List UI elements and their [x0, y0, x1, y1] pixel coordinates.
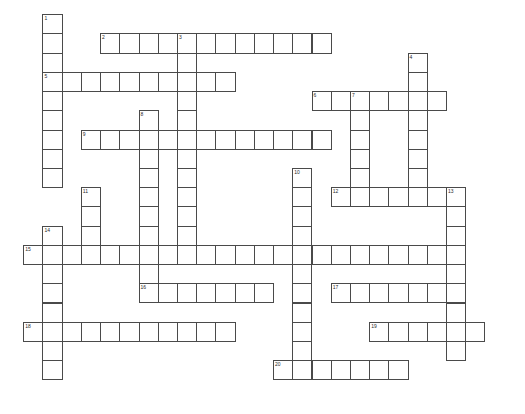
crossword-cell[interactable]	[350, 168, 370, 188]
crossword-cell[interactable]	[331, 245, 351, 265]
crossword-cell[interactable]	[292, 245, 312, 265]
crossword-cell[interactable]	[446, 245, 466, 265]
crossword-cell[interactable]	[254, 245, 274, 265]
crossword-cell[interactable]	[177, 322, 197, 342]
crossword-cell[interactable]	[158, 245, 178, 265]
crossword-cell[interactable]	[196, 322, 216, 342]
crossword-cell[interactable]	[369, 91, 389, 111]
crossword-cell[interactable]	[42, 33, 62, 53]
crossword-cell[interactable]	[312, 245, 332, 265]
crossword-cell[interactable]	[369, 360, 389, 380]
crossword-cell[interactable]	[42, 245, 62, 265]
crossword-cell[interactable]: 5	[42, 72, 62, 92]
crossword-cell[interactable]	[446, 226, 466, 246]
crossword-cell[interactable]	[100, 322, 120, 342]
crossword-cell[interactable]	[119, 72, 139, 92]
crossword-cell[interactable]	[177, 91, 197, 111]
crossword-cell[interactable]	[427, 283, 447, 303]
crossword-cell[interactable]	[331, 91, 351, 111]
crossword-cell[interactable]	[177, 168, 197, 188]
crossword-cell[interactable]	[177, 149, 197, 169]
crossword-cell[interactable]	[292, 322, 312, 342]
crossword-cell[interactable]	[81, 322, 101, 342]
crossword-cell[interactable]	[446, 341, 466, 361]
crossword-cell[interactable]	[408, 187, 428, 207]
crossword-cell[interactable]: 4	[408, 53, 428, 73]
crossword-cell[interactable]	[42, 341, 62, 361]
crossword-cell[interactable]	[408, 322, 428, 342]
crossword-cell[interactable]	[158, 283, 178, 303]
crossword-cell[interactable]	[196, 130, 216, 150]
crossword-cell[interactable]	[273, 245, 293, 265]
crossword-cell[interactable]	[177, 53, 197, 73]
crossword-cell[interactable]	[139, 245, 159, 265]
crossword-cell[interactable]	[42, 264, 62, 284]
crossword-cell[interactable]	[369, 187, 389, 207]
crossword-cell[interactable]	[388, 322, 408, 342]
crossword-cell[interactable]	[62, 245, 82, 265]
crossword-cell[interactable]	[350, 130, 370, 150]
crossword-cell[interactable]	[177, 72, 197, 92]
crossword-cell[interactable]	[177, 245, 197, 265]
crossword-cell[interactable]	[42, 360, 62, 380]
crossword-cell[interactable]: 19	[369, 322, 389, 342]
crossword-cell[interactable]	[42, 168, 62, 188]
crossword-cell[interactable]	[81, 72, 101, 92]
crossword-cell[interactable]	[119, 245, 139, 265]
crossword-cell[interactable]: 3	[177, 33, 197, 53]
crossword-cell[interactable]	[292, 341, 312, 361]
crossword-cell[interactable]: 1	[42, 14, 62, 34]
crossword-cell[interactable]: 18	[23, 322, 43, 342]
crossword-cell[interactable]	[292, 187, 312, 207]
crossword-cell[interactable]	[42, 110, 62, 130]
crossword-cell[interactable]	[215, 322, 235, 342]
crossword-cell[interactable]	[196, 72, 216, 92]
crossword-cell[interactable]	[350, 187, 370, 207]
crossword-cell[interactable]	[215, 283, 235, 303]
crossword-cell[interactable]	[254, 283, 274, 303]
crossword-cell[interactable]	[292, 226, 312, 246]
crossword-cell[interactable]	[177, 130, 197, 150]
crossword-cell[interactable]	[446, 303, 466, 323]
crossword-cell[interactable]	[292, 360, 312, 380]
crossword-cell[interactable]	[139, 264, 159, 284]
crossword-cell[interactable]: 12	[331, 187, 351, 207]
crossword-cell[interactable]	[196, 245, 216, 265]
crossword-cell[interactable]	[446, 322, 466, 342]
crossword-cell[interactable]	[139, 149, 159, 169]
crossword-cell[interactable]	[408, 110, 428, 130]
crossword-cell[interactable]	[388, 91, 408, 111]
crossword-cell[interactable]	[446, 283, 466, 303]
crossword-cell[interactable]	[408, 130, 428, 150]
crossword-cell[interactable]	[292, 264, 312, 284]
crossword-cell[interactable]	[465, 322, 485, 342]
crossword-cell[interactable]	[100, 245, 120, 265]
crossword-cell[interactable]	[446, 206, 466, 226]
crossword-cell[interactable]	[158, 130, 178, 150]
crossword-cell[interactable]	[177, 283, 197, 303]
crossword-cell[interactable]	[139, 72, 159, 92]
crossword-cell[interactable]	[42, 91, 62, 111]
crossword-cell[interactable]	[254, 130, 274, 150]
crossword-cell[interactable]	[350, 149, 370, 169]
crossword-cell[interactable]	[177, 110, 197, 130]
crossword-cell[interactable]	[196, 283, 216, 303]
crossword-cell[interactable]	[350, 110, 370, 130]
crossword-cell[interactable]	[427, 245, 447, 265]
crossword-cell[interactable]	[196, 33, 216, 53]
crossword-cell[interactable]	[408, 283, 428, 303]
crossword-cell[interactable]	[158, 72, 178, 92]
crossword-cell[interactable]	[369, 245, 389, 265]
crossword-cell[interactable]: 6	[312, 91, 332, 111]
crossword-cell[interactable]	[100, 72, 120, 92]
crossword-cell[interactable]: 11	[81, 187, 101, 207]
crossword-cell[interactable]	[139, 168, 159, 188]
crossword-cell[interactable]	[408, 91, 428, 111]
crossword-cell[interactable]	[312, 360, 332, 380]
crossword-cell[interactable]	[119, 33, 139, 53]
crossword-cell[interactable]	[215, 72, 235, 92]
crossword-cell[interactable]	[292, 206, 312, 226]
crossword-cell[interactable]	[446, 264, 466, 284]
crossword-cell[interactable]	[350, 360, 370, 380]
crossword-cell[interactable]	[215, 245, 235, 265]
